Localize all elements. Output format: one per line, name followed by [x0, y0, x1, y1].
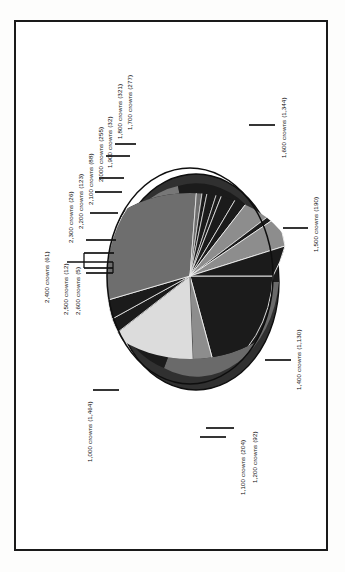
callout-2000-label: 2,000 crowns (255) — [97, 127, 104, 182]
callout-2500-label: 2,500 crowns (12) — [62, 263, 69, 315]
callout-2400-label: 2,400 crowns (61) — [43, 251, 50, 303]
callout-1100-label: 1,100 crowns (204) — [239, 440, 246, 495]
callout-1000-label: 1,000 crowns (1,464) — [86, 401, 93, 462]
callout-1500-label: 1,500 crowns (190) — [312, 197, 319, 252]
callout-1700-label: 1,700 crowns (277) — [126, 75, 133, 130]
callout-2300-label: 2,300 crowns (26) — [67, 191, 74, 243]
figure-container: 1,600 crowns (1,344) 1,500 crowns (190) … — [0, 0, 345, 572]
pie-chart — [0, 0, 345, 572]
callout-1900-label: 1,900 crowns (32) — [106, 116, 113, 168]
callout-1800-label: 1,800 crowns (321) — [116, 84, 123, 139]
callout-2200-label: 2,200 crowns (123) — [77, 174, 84, 229]
callout-1200-label: 1,200 crowns (92) — [251, 431, 258, 483]
callout-1400-label: 1,400 crowns (1,130) — [295, 329, 302, 390]
callout-2600-label: 2,600 crowns (5) — [74, 267, 81, 315]
callout-2100-label: 2,100 crowns (88) — [87, 153, 94, 205]
callout-1600-label: 1,600 crowns (1,344) — [280, 97, 287, 158]
